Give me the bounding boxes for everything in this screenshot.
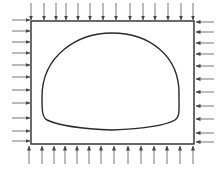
tunnel-outline: [42, 33, 179, 130]
boundary-load-arrows: [12, 3, 214, 164]
tunnel-load-diagram: [0, 0, 224, 170]
boundary-box: [31, 21, 194, 144]
